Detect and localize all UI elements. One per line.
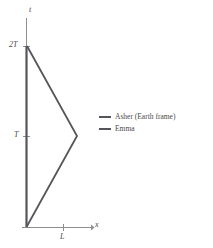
worldline-emma [27, 46, 78, 227]
x-axis-arrowhead [91, 225, 95, 231]
t-axis-label: t [29, 6, 31, 14]
legend-label-emma: Emma [115, 125, 135, 133]
legend-item-emma: Emma [99, 123, 211, 134]
legend-swatch-asher [99, 116, 111, 118]
x-axis-label: x [95, 221, 99, 229]
tick-label-T: T [14, 131, 18, 139]
spacetime-diagram-figure: t x 2T T L Asher (Earth frame) Emma [0, 0, 213, 248]
legend-label-asher: Asher (Earth frame) [115, 113, 175, 121]
legend-swatch-emma [99, 128, 111, 130]
tick-label-2T: 2T [9, 41, 17, 49]
legend-item-asher: Asher (Earth frame) [99, 111, 211, 122]
chart-legend: Asher (Earth frame) Emma [99, 111, 211, 135]
tick-label-L: L [60, 233, 64, 241]
